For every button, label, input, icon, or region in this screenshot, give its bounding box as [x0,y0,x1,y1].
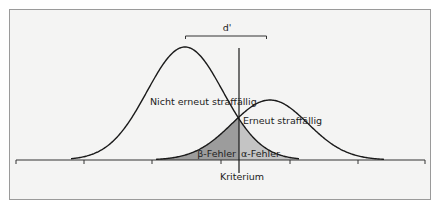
criterion-label: Kriterium [220,171,264,182]
beta-error-label: β-Fehler [197,148,236,159]
signal-detection-diagram: d' Nicht erneut straffällig Erneut straf… [0,0,438,209]
reoffending-label: Erneut straffällig [243,115,322,126]
not-reoffending-label: Nicht erneut straffällig [150,96,257,107]
x-axis-ticks [16,160,425,164]
d-prime-label: d' [223,22,232,33]
alpha-error-label: α-Fehler [241,148,280,159]
d-prime-bracket [186,36,267,39]
